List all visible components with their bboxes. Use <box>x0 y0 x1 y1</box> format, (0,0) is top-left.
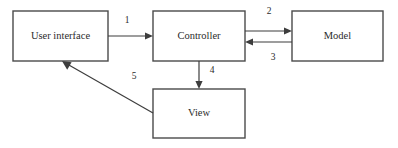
model-label: Model <box>324 30 351 41</box>
edge-2-arrowhead <box>284 27 292 34</box>
edge-3-label: 3 <box>271 52 276 62</box>
diagram-canvas: User interface Controller Model View 1 2 <box>0 0 398 148</box>
node-user-interface[interactable]: User interface <box>13 11 108 61</box>
edge-4-label: 4 <box>210 65 215 75</box>
edge-5-view-to-ui: 5 <box>62 61 153 113</box>
edge-1-ui-to-controller: 1 <box>108 15 153 39</box>
edge-3-model-to-controller: 3 <box>245 38 292 62</box>
edge-2-controller-to-model: 2 <box>245 6 292 34</box>
edge-1-label: 1 <box>125 15 130 25</box>
edge-5-label: 5 <box>132 71 137 81</box>
controller-label: Controller <box>177 30 221 41</box>
edge-4-controller-to-view: 4 <box>195 61 214 89</box>
node-model[interactable]: Model <box>292 11 383 61</box>
edge-3-arrowhead <box>245 38 253 45</box>
node-view[interactable]: View <box>153 89 245 138</box>
edge-1-arrowhead <box>145 32 153 39</box>
mvc-diagram: User interface Controller Model View 1 2 <box>0 0 398 148</box>
edge-4-arrowhead <box>195 81 202 89</box>
view-label: View <box>188 107 211 118</box>
node-controller[interactable]: Controller <box>153 11 245 61</box>
edge-5-line <box>68 65 153 114</box>
edge-2-label: 2 <box>267 6 272 16</box>
user-interface-label: User interface <box>31 30 91 41</box>
